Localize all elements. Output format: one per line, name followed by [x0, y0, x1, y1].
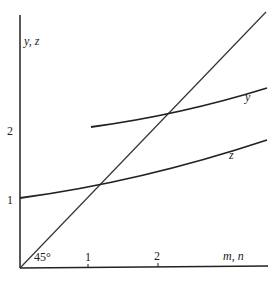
xtick-label-2: 2: [154, 249, 160, 264]
line-45-degree: [20, 12, 266, 268]
x-axis: [20, 266, 268, 268]
ytick-label-1: 1: [7, 193, 13, 208]
xtick-label-1: 1: [85, 250, 91, 265]
diagram-canvas: [0, 0, 277, 281]
curve-y: [91, 88, 267, 127]
curve-y-label: y: [245, 90, 250, 105]
angle-label: 45°: [34, 250, 51, 265]
x-axis-label: m, n: [223, 249, 244, 264]
ytick-label-2: 2: [7, 124, 13, 139]
curve-z-label: z: [229, 148, 234, 163]
y-axis-label: y, z: [24, 34, 39, 49]
